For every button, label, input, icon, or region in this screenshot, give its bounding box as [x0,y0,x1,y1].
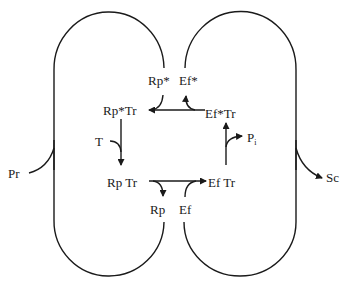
label-pr: Pr [8,166,20,181]
label-t: T [95,134,103,149]
ef-star-out-curve [186,96,195,110]
label-ef-star-tr: Ef*Tr [205,106,236,121]
label-ef-star: Ef* [179,73,198,88]
label-ef: Ef [179,202,192,217]
pi-out-curve [226,136,242,147]
rp-out-curve [153,181,163,196]
label-rp-star-tr: Rp*Tr [103,103,137,118]
rp-star-in-curve [152,95,163,110]
ef-in-curve [185,181,196,197]
label-rp-star: Rp* [148,73,170,88]
label-rp: Rp [150,202,165,217]
t-in-curve [110,141,121,152]
label-p: Pi [247,130,257,147]
right-loop-lower [184,140,296,276]
label-ef-tr: Ef Tr [208,175,236,190]
sc-output-curve [296,148,322,178]
label-sc: Sc [326,170,339,185]
reaction-cycle-diagram: Rp* Ef* Rp*Tr Ef*Tr T Pi Rp Tr Ef Tr Rp … [0,0,351,285]
pr-input-curve [29,148,54,173]
left-loop-upper [54,12,164,170]
label-rp-tr: Rp Tr [107,175,138,190]
right-loop-upper [185,11,296,170]
left-loop-lower [54,140,164,276]
